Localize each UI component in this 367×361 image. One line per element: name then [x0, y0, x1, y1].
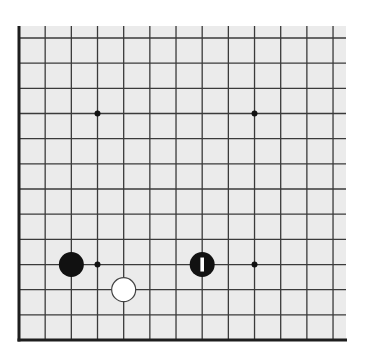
intersection-7-7[interactable] — [189, 202, 215, 227]
intersection-2-0[interactable] — [58, 25, 84, 50]
intersection-12-12[interactable] — [320, 327, 346, 352]
intersection-1-2[interactable] — [32, 76, 58, 101]
intersection-9-5[interactable] — [241, 151, 267, 176]
intersection-9-7[interactable] — [241, 202, 267, 227]
intersection-6-6[interactable] — [163, 176, 189, 201]
intersection-3-5[interactable] — [84, 151, 110, 176]
intersection-2-11[interactable] — [58, 302, 84, 327]
intersection-12-0[interactable] — [320, 25, 346, 50]
intersection-1-6[interactable] — [32, 176, 58, 201]
intersection-2-5[interactable] — [58, 151, 84, 176]
intersection-12-3[interactable] — [320, 101, 346, 126]
intersection-7-3[interactable] — [189, 101, 215, 126]
intersection-10-10[interactable] — [268, 277, 294, 302]
intersection-1-4[interactable] — [32, 126, 58, 151]
intersection-9-0[interactable] — [241, 25, 267, 50]
intersection-5-6[interactable] — [137, 176, 163, 201]
intersection-4-4[interactable] — [111, 126, 137, 151]
intersection-9-12[interactable] — [241, 327, 267, 352]
intersection-11-7[interactable] — [294, 202, 320, 227]
intersection-11-8[interactable] — [294, 227, 320, 252]
intersection-6-0[interactable] — [163, 25, 189, 50]
intersection-12-5[interactable] — [320, 151, 346, 176]
intersection-10-6[interactable] — [268, 176, 294, 201]
intersection-5-1[interactable] — [137, 51, 163, 76]
intersection-1-3[interactable] — [32, 101, 58, 126]
intersection-4-11[interactable] — [111, 302, 137, 327]
intersection-4-5[interactable] — [111, 151, 137, 176]
intersection-1-8[interactable] — [32, 227, 58, 252]
intersection-6-7[interactable] — [163, 202, 189, 227]
intersection-9-1[interactable] — [241, 51, 267, 76]
intersection-3-1[interactable] — [84, 51, 110, 76]
intersection-1-1[interactable] — [32, 51, 58, 76]
intersection-11-12[interactable] — [294, 327, 320, 352]
intersection-3-6[interactable] — [84, 176, 110, 201]
intersection-6-8[interactable] — [163, 227, 189, 252]
intersection-10-2[interactable] — [268, 76, 294, 101]
intersection-6-2[interactable] — [163, 76, 189, 101]
intersection-12-7[interactable] — [320, 202, 346, 227]
intersection-7-2[interactable] — [189, 76, 215, 101]
intersection-10-3[interactable] — [268, 101, 294, 126]
intersection-6-5[interactable] — [163, 151, 189, 176]
intersection-10-8[interactable] — [268, 227, 294, 252]
intersection-5-7[interactable] — [137, 202, 163, 227]
intersection-9-4[interactable] — [241, 126, 267, 151]
intersection-10-5[interactable] — [268, 151, 294, 176]
intersection-1-10[interactable] — [32, 277, 58, 302]
intersection-5-2[interactable] — [137, 76, 163, 101]
intersection-0-9[interactable] — [6, 252, 32, 277]
intersection-0-4[interactable] — [6, 126, 32, 151]
intersection-8-4[interactable] — [215, 126, 241, 151]
intersection-1-9[interactable] — [32, 252, 58, 277]
intersection-4-12[interactable] — [111, 327, 137, 352]
intersection-2-2[interactable] — [58, 76, 84, 101]
intersection-3-7[interactable] — [84, 202, 110, 227]
intersection-1-0[interactable] — [32, 25, 58, 50]
intersection-7-5[interactable] — [189, 151, 215, 176]
intersection-4-0[interactable] — [111, 25, 137, 50]
intersection-2-3[interactable] — [58, 101, 84, 126]
intersection-6-3[interactable] — [163, 101, 189, 126]
intersection-11-9[interactable] — [294, 252, 320, 277]
intersection-2-10[interactable] — [58, 277, 84, 302]
intersection-10-12[interactable] — [268, 327, 294, 352]
intersection-12-1[interactable] — [320, 51, 346, 76]
intersection-0-1[interactable] — [6, 51, 32, 76]
intersection-5-10[interactable] — [137, 277, 163, 302]
intersection-6-12[interactable] — [163, 327, 189, 352]
intersection-3-10[interactable] — [84, 277, 110, 302]
intersection-2-12[interactable] — [58, 327, 84, 352]
intersection-3-2[interactable] — [84, 76, 110, 101]
intersection-6-10[interactable] — [163, 277, 189, 302]
intersection-1-5[interactable] — [32, 151, 58, 176]
intersection-0-6[interactable] — [6, 176, 32, 201]
intersection-12-10[interactable] — [320, 277, 346, 302]
intersection-10-1[interactable] — [268, 51, 294, 76]
intersection-11-5[interactable] — [294, 151, 320, 176]
intersection-11-0[interactable] — [294, 25, 320, 50]
intersection-0-12[interactable] — [6, 327, 32, 352]
intersection-0-7[interactable] — [6, 202, 32, 227]
intersection-9-8[interactable] — [241, 227, 267, 252]
intersection-8-3[interactable] — [215, 101, 241, 126]
intersection-4-6[interactable] — [111, 176, 137, 201]
intersection-3-11[interactable] — [84, 302, 110, 327]
intersection-8-5[interactable] — [215, 151, 241, 176]
intersection-8-2[interactable] — [215, 76, 241, 101]
intersection-6-4[interactable] — [163, 126, 189, 151]
intersection-6-9[interactable] — [163, 252, 189, 277]
intersection-6-1[interactable] — [163, 51, 189, 76]
intersection-9-6[interactable] — [241, 176, 267, 201]
intersection-11-1[interactable] — [294, 51, 320, 76]
intersection-11-10[interactable] — [294, 277, 320, 302]
intersection-5-9[interactable] — [137, 252, 163, 277]
intersection-7-4[interactable] — [189, 126, 215, 151]
intersection-8-8[interactable] — [215, 227, 241, 252]
intersection-10-0[interactable] — [268, 25, 294, 50]
intersection-12-4[interactable] — [320, 126, 346, 151]
intersection-8-12[interactable] — [215, 327, 241, 352]
intersection-1-12[interactable] — [32, 327, 58, 352]
intersection-5-12[interactable] — [137, 327, 163, 352]
